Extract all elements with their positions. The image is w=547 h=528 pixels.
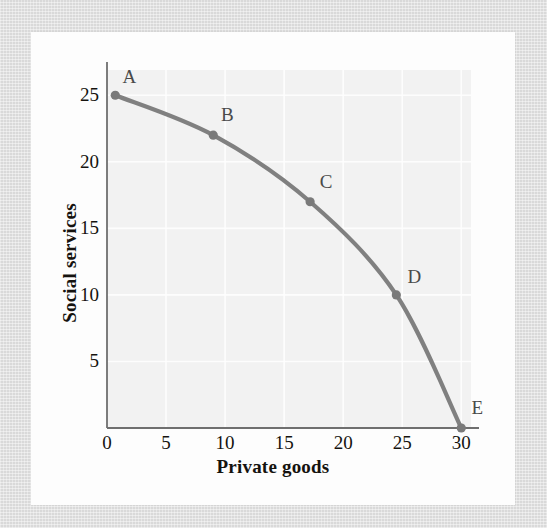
y-axis-title: Social services <box>59 138 81 388</box>
y-tick-label-10: 10 <box>80 284 99 306</box>
x-tick-label-20: 20 <box>334 432 353 454</box>
data-point-marker-A <box>111 91 120 100</box>
x-tick-label-5: 5 <box>161 432 171 454</box>
x-tick-label-0: 0 <box>102 432 112 454</box>
x-tick-label-25: 25 <box>393 432 412 454</box>
y-tick-label-25: 25 <box>80 84 99 106</box>
point-label-B: B <box>221 104 234 126</box>
point-label-A: A <box>122 66 136 88</box>
y-tick-label-20: 20 <box>80 151 99 173</box>
x-tick-label-30: 30 <box>452 432 471 454</box>
scanned-page-frame: 051015202530 510152025 ABCDE Private goo… <box>0 0 547 528</box>
x-tick-label-15: 15 <box>275 432 294 454</box>
data-point-marker-D <box>392 290 401 299</box>
data-point-marker-B <box>209 131 218 140</box>
ppf-chart: 051015202530 510152025 ABCDE Private goo… <box>31 32 515 505</box>
point-label-E: E <box>471 397 483 419</box>
y-tick-label-15: 15 <box>80 217 99 239</box>
point-label-C: C <box>320 171 333 193</box>
figure-paper: 051015202530 510152025 ABCDE Private goo… <box>31 32 515 505</box>
x-axis-title: Private goods <box>31 456 515 478</box>
y-tick-label-5: 5 <box>90 350 100 372</box>
plot-background <box>107 70 471 428</box>
data-point-marker-C <box>306 197 315 206</box>
point-label-D: D <box>407 266 421 288</box>
x-tick-label-10: 10 <box>216 432 235 454</box>
